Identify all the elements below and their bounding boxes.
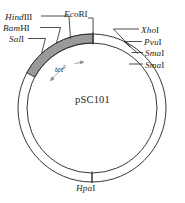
site-label-pvui-enzyme: I (159, 37, 162, 47)
plasmid-inner-circle (27, 43, 157, 173)
site-label-bamhi-enzyme: HI (20, 23, 29, 33)
site-label-bamhi-gene: Bam (3, 23, 20, 33)
site-label-xhoi-enzyme: I (156, 25, 159, 35)
site-label-pvui-gene: Pvu (144, 37, 159, 47)
site-label-hindiii-enzyme: III (24, 12, 32, 22)
site-label-xhoi-gene: Xho (141, 25, 156, 35)
leader-line-ecori (88, 18, 93, 33)
site-label-sali-gene: Sal (9, 34, 21, 44)
site-label-sali-enzyme: I (21, 34, 24, 44)
site-label-pvui: PvuI (144, 37, 161, 47)
site-label-smai-1-enzyme: I (161, 48, 164, 58)
gene-label-tet-superscript: r (63, 63, 65, 69)
site-label-smai-2: SmaI (145, 60, 164, 70)
site-label-smai-1-gene: Sma (145, 48, 161, 58)
site-label-ecori-enzyme: RI (79, 9, 88, 19)
plasmid-name-label: pSC101 (0, 95, 185, 105)
site-label-hindiii-gene: Hind (5, 12, 24, 22)
site-label-bamhi: BamHI (3, 23, 29, 33)
site-label-smai-2-enzyme: I (161, 60, 164, 70)
site-label-hpai: HpaI (76, 183, 95, 193)
site-label-ecori: EcoRI (64, 9, 87, 19)
site-label-hindiii: HindIII (5, 12, 32, 22)
site-label-ecori-gene: Eco (64, 9, 79, 19)
site-label-hpai-gene: Hpa (76, 183, 92, 193)
leader-line-bamhi (40, 28, 61, 44)
site-label-smai-1: SmaI (145, 48, 164, 58)
leader-line-sali (28, 39, 46, 54)
site-label-smai-2-gene: Sma (145, 60, 161, 70)
site-label-xhoi: XhoI (141, 25, 159, 35)
leader-line-pvui (124, 42, 142, 54)
plasmid-map-figure: HindIII BamHI SalI EcoRI XhoI PvuI SmaI … (0, 0, 185, 203)
site-label-sali: SalI (9, 34, 24, 44)
gene-label-tet-resistance: tetr (55, 61, 66, 75)
site-label-hpai-enzyme: I (92, 183, 95, 193)
